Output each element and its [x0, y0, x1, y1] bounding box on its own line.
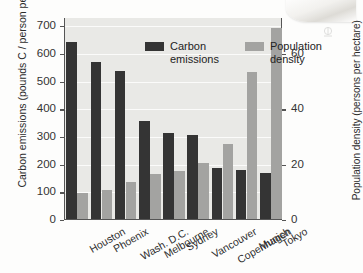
- y-axis-left-title: Carbon emissions (pounds C / person per …: [16, 18, 29, 188]
- y-tick-mark-left: [60, 220, 64, 221]
- bar-group: [65, 18, 89, 220]
- y-tick-mark-left: [60, 137, 64, 138]
- plot-area: Carbon emissions Population density: [64, 18, 282, 220]
- y-tick-mark-left: [60, 26, 64, 27]
- bar-density-vancouver: [198, 163, 209, 220]
- bar-carbon-houston: [66, 42, 77, 220]
- bar-density-sydney: [174, 171, 185, 220]
- y-tick-label-right: 60: [291, 48, 304, 60]
- y-tick-mark-left: [60, 165, 64, 166]
- y-tick-label-left: 700: [26, 20, 56, 32]
- legend-item-carbon-emissions: Carbon emissions: [145, 40, 219, 66]
- y-tick-mark-left: [60, 109, 64, 110]
- bar-carbon-wash-d-c: [115, 71, 126, 220]
- legend-swatch-density-icon: [245, 42, 264, 51]
- y-tick-label-right: 20: [291, 159, 304, 171]
- legend-item-population-density: Population density: [245, 40, 322, 66]
- page-curl-artifact: [286, 0, 356, 22]
- bar-carbon-vancouver: [187, 135, 198, 220]
- bar-carbon-munich: [236, 170, 247, 220]
- y-tick-mark-left: [60, 54, 64, 55]
- y-axis-right-title: Population density (persons per hectare): [351, 10, 363, 210]
- bar-carbon-melbourne: [139, 121, 150, 220]
- y-tick-label-left: 300: [26, 131, 56, 143]
- legend-label-carbon: Carbon emissions: [170, 40, 219, 66]
- y-tick-label-left: 100: [26, 186, 56, 198]
- bar-density-wash-d-c: [126, 182, 137, 220]
- y-tick-label-left: 200: [26, 159, 56, 171]
- bar-carbon-phoenix: [91, 62, 102, 220]
- legend-swatch-carbon-icon: [145, 42, 164, 51]
- y-tick-label-left: 600: [26, 48, 56, 60]
- bar-carbon-tokyo: [260, 173, 271, 220]
- y-tick-label-right: 0: [291, 214, 297, 226]
- bar-density-phoenix: [102, 190, 113, 220]
- bar-group: [89, 18, 113, 220]
- y-tick-label-left: 400: [26, 103, 56, 115]
- y-tick-label-right: 40: [291, 103, 304, 115]
- bar-density-melbourne: [150, 174, 161, 220]
- bar-density-copenhagen: [223, 144, 234, 220]
- y-tick-mark-right: [282, 109, 286, 110]
- bar-density-houston: [77, 193, 88, 220]
- bar-carbon-sydney: [163, 133, 174, 220]
- scan-smudge-icon: [320, 24, 336, 40]
- x-axis-line: [64, 219, 282, 220]
- y-tick-mark-left: [60, 192, 64, 193]
- bar-carbon-copenhagen: [212, 168, 223, 220]
- y-tick-label-left: 0: [26, 214, 56, 226]
- bar-group: [113, 18, 137, 220]
- y-tick-label-left: 500: [26, 76, 56, 88]
- y-tick-mark-right: [282, 165, 286, 166]
- bar-density-munich: [247, 72, 258, 220]
- y-tick-mark-left: [60, 82, 64, 83]
- y-tick-mark-right: [282, 220, 286, 221]
- y-tick-mark-right: [282, 54, 286, 55]
